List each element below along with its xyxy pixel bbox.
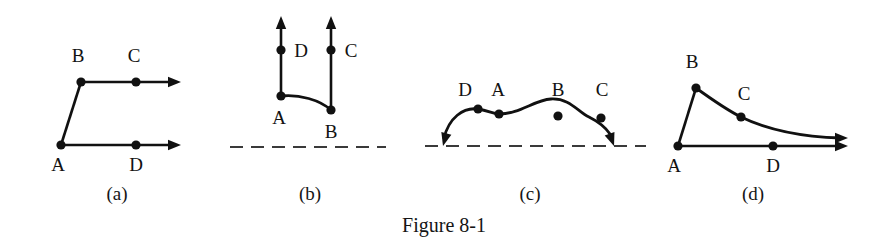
panel-c-label-c: C [596, 79, 609, 100]
panel-a-point-d [131, 140, 140, 149]
panel-a-label-b: B [72, 45, 85, 66]
panel-c-label-a: A [491, 79, 505, 100]
panel-a-arrowhead-upper-right [168, 77, 181, 87]
panel-a-point-a [56, 140, 65, 149]
panel-d-label-c: C [738, 83, 751, 104]
panel-d-label-a: A [667, 155, 681, 176]
figure-container: ABCD(a)DACB(b)DABC(c)ABCD(d) Figure 8-1 [0, 0, 889, 244]
panel-d-caption: (d) [742, 183, 764, 205]
panel-d-decay-curve-b-through-c [696, 88, 841, 138]
panel-d-label-d: D [766, 155, 780, 176]
panel-d: ABCD(d) [667, 51, 848, 205]
panel-c-point-c [596, 113, 605, 122]
panel-b-label-a: A [272, 107, 286, 128]
panel-d-point-d [768, 141, 777, 150]
panel-b-arrowhead-right-up [326, 16, 336, 29]
panel-d-point-b [691, 83, 700, 92]
panel-c-point-b [553, 111, 562, 120]
panel-d-point-a [673, 141, 682, 150]
panel-b-label-d: D [294, 40, 308, 61]
panel-a-segment-a-to-b [61, 82, 81, 145]
panel-c-hump-curve [444, 99, 610, 138]
panel-b-arrowhead-left-up [276, 16, 286, 29]
panel-b-point-b [326, 105, 335, 114]
panel-c-label-d: D [458, 79, 472, 100]
panel-b-label-c: C [345, 40, 358, 61]
panel-b-caption: (b) [299, 183, 321, 205]
panel-b: DACB(b) [230, 16, 386, 205]
panel-c: DABC(c) [425, 79, 646, 205]
panel-a-point-c [131, 77, 140, 86]
panel-b-point-c [326, 45, 335, 54]
panel-d-label-b: B [686, 51, 699, 72]
panel-c-point-a [494, 109, 503, 118]
panel-d-arrowhead-line-right [835, 141, 848, 151]
panel-a-label-d: D [129, 154, 143, 175]
panel-b-label-b: B [325, 121, 338, 142]
panel-c-caption: (c) [519, 183, 540, 205]
panel-d-segment-a-to-b [678, 88, 696, 146]
panel-c-arrowhead-right-down [605, 132, 615, 146]
panel-a: ABCD(a) [51, 45, 181, 205]
panel-c-label-b: B [552, 79, 565, 100]
panel-b-point-d [276, 45, 285, 54]
panel-b-curve-a-to-b [281, 96, 331, 110]
panel-a-label-a: A [51, 154, 65, 175]
figure-caption: Figure 8-1 [402, 214, 486, 237]
panel-a-point-b [76, 77, 85, 86]
panel-a-label-c: C [128, 45, 141, 66]
panel-b-point-a [276, 91, 285, 100]
panel-d-point-c [736, 112, 745, 121]
panel-a-caption: (a) [106, 183, 127, 205]
figure-svg-canvas: ABCD(a)DACB(b)DABC(c)ABCD(d) Figure 8-1 [0, 0, 889, 244]
panels-group: ABCD(a)DACB(b)DABC(c)ABCD(d) [51, 16, 848, 205]
panel-a-arrowhead-lower-right [168, 140, 181, 150]
panel-c-arrowhead-left-down [441, 132, 451, 146]
panel-c-point-d [473, 104, 482, 113]
